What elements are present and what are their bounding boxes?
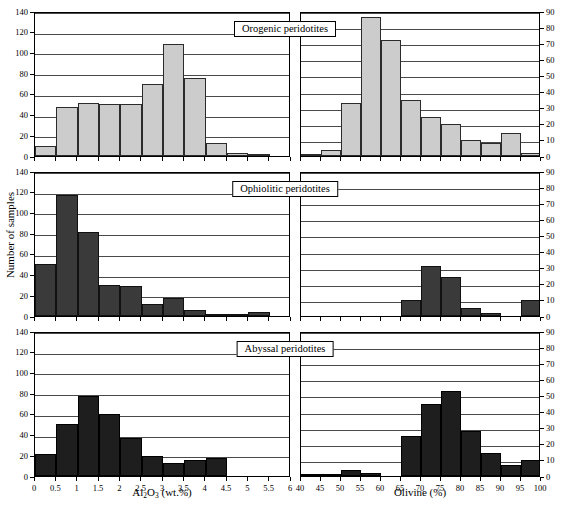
x-axis-tick: [226, 317, 227, 321]
x-axis-tick: [290, 317, 291, 321]
y-axis-tick: [30, 172, 34, 173]
panel-title-ophiolitic: Ophiolitic peridotites: [232, 181, 338, 197]
x-axis-tick: [204, 477, 205, 481]
y-axis-tick: [30, 394, 34, 395]
y-axis-tick: [540, 92, 544, 93]
plot-area-abyssal-right: [300, 332, 540, 477]
y-axis-tick: [540, 157, 544, 158]
histogram-bar: [227, 153, 248, 156]
x-axis-tick: [98, 317, 99, 321]
x-axis-tick: [360, 477, 361, 481]
x-axis-tick: [162, 477, 163, 481]
x-axis-tick: [380, 477, 381, 481]
x-axis-tick: [162, 157, 163, 161]
histogram-bar: [521, 300, 540, 316]
histogram-bar: [78, 232, 99, 316]
y-axis-tick: [540, 268, 544, 269]
y-axis-tick-label: 30: [546, 423, 570, 433]
y-axis-tick-label: 30: [546, 103, 570, 113]
y-axis-tick-label: 40: [546, 247, 570, 257]
y-axis-tick: [540, 332, 544, 333]
gridline: [301, 381, 539, 382]
gridline: [301, 397, 539, 398]
x-axis-tick: [119, 477, 120, 481]
x-axis-tick: [98, 157, 99, 161]
gridline: [301, 349, 539, 350]
y-axis-tick: [540, 396, 544, 397]
gridline: [35, 416, 289, 417]
x-axis-tick: [380, 317, 381, 321]
x-axis-tick: [300, 157, 301, 161]
y-axis-tick-label: 0: [0, 152, 28, 162]
y-axis-tick: [540, 188, 544, 189]
x-axis-tick: [320, 477, 321, 481]
histogram-bar: [461, 431, 481, 476]
histogram-bar: [341, 103, 361, 156]
x-axis-tick: [34, 477, 35, 481]
y-axis-tick-label: 80: [546, 183, 570, 193]
histogram-bar: [421, 266, 441, 316]
x-axis-tick: [268, 157, 269, 161]
y-axis-tick-label: 10: [546, 295, 570, 305]
y-axis-tick: [30, 192, 34, 193]
y-axis-tick-label: 80: [0, 389, 28, 399]
x-axis-tick: [76, 157, 77, 161]
x-axis-tick: [340, 317, 341, 321]
gridline: [301, 414, 539, 415]
y-axis-tick-label: 120: [0, 27, 28, 37]
x-axis-tick: [98, 477, 99, 481]
gridline: [35, 333, 289, 334]
y-axis-tick-label: 140: [0, 327, 28, 337]
x-axis-tick: [76, 477, 77, 481]
gridline: [301, 13, 539, 14]
x-axis-tick: [480, 317, 481, 321]
histogram-bar: [56, 424, 77, 476]
histogram-bar: [421, 404, 441, 477]
y-axis-tick: [540, 317, 544, 318]
x-axis-tick: [420, 157, 421, 161]
gridline: [301, 254, 539, 255]
y-axis-tick-label: 70: [546, 39, 570, 49]
y-axis-tick-label: 20: [546, 279, 570, 289]
histogram-bar: [301, 154, 321, 156]
histogram-bar: [521, 460, 540, 476]
gridline: [35, 395, 289, 396]
y-axis-tick: [540, 236, 544, 237]
y-axis-tick: [540, 60, 544, 61]
y-axis-tick-label: 50: [546, 231, 570, 241]
histogram-bar: [163, 298, 184, 316]
x-axis-tick: [247, 477, 248, 481]
histogram-bar: [35, 454, 56, 476]
histogram-bar: [341, 470, 361, 476]
x-axis-tick: [55, 157, 56, 161]
x-axis-tick: [380, 157, 381, 161]
y-axis-tick-label: 0: [0, 472, 28, 482]
x-axis-tick: [520, 157, 521, 161]
x-axis-tick: [290, 157, 291, 161]
y-axis-tick-label: 80: [546, 23, 570, 33]
y-axis-tick-label: 10: [546, 135, 570, 145]
y-axis-tick-label: 0: [546, 472, 570, 482]
x-axis-tick: [268, 477, 269, 481]
x-axis-tick: [140, 157, 141, 161]
histogram-bar: [120, 438, 141, 476]
gridline: [301, 333, 539, 334]
x-axis-tick: [183, 317, 184, 321]
x-axis-tick: [119, 157, 120, 161]
histogram-bar: [361, 473, 381, 476]
y-axis-tick: [30, 332, 34, 333]
gridline: [301, 221, 539, 222]
histogram-bar: [35, 146, 56, 156]
x-axis-tick: [500, 317, 501, 321]
y-axis-tick: [540, 204, 544, 205]
x-axis-tick: [500, 477, 501, 481]
x-axis-tick: [247, 157, 248, 161]
y-axis-tick-label: 140: [0, 167, 28, 177]
y-axis-tick: [540, 252, 544, 253]
x-axis-tick: [520, 317, 521, 321]
y-axis-tick-label: 80: [0, 229, 28, 239]
y-axis-tick: [540, 300, 544, 301]
y-axis-tick: [30, 234, 34, 235]
y-axis-tick-label: 60: [0, 409, 28, 419]
histogram-bar: [35, 264, 56, 316]
